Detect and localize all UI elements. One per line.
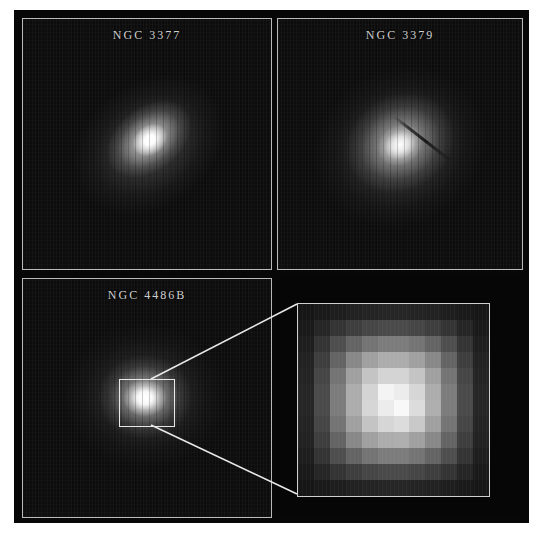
pixel-cell xyxy=(362,368,378,384)
panel-ngc3377: NGC 3377 xyxy=(22,18,272,270)
pixel-cell xyxy=(473,480,489,496)
pixel-cell xyxy=(378,368,394,384)
pixel-cell xyxy=(441,320,457,336)
pixel-cell xyxy=(425,400,441,416)
pixel-cell xyxy=(330,352,346,368)
panel-ngc3379: NGC 3379 xyxy=(277,18,523,270)
pixel-cell xyxy=(330,368,346,384)
pixel-cell xyxy=(457,416,473,432)
pixel-cell xyxy=(378,464,394,480)
pixel-cell xyxy=(330,464,346,480)
pixel-cell xyxy=(441,400,457,416)
pixel-cell xyxy=(409,304,425,320)
pixel-cell xyxy=(394,448,410,464)
pixel-cell xyxy=(346,384,362,400)
pixel-cell xyxy=(394,416,410,432)
pixel-cell xyxy=(378,400,394,416)
pixel-cell xyxy=(330,416,346,432)
pixel-cell xyxy=(394,320,410,336)
pixel-cell xyxy=(378,448,394,464)
pixel-cell xyxy=(298,400,314,416)
pixel-cell xyxy=(409,368,425,384)
pixel-cell xyxy=(441,336,457,352)
pixel-cell xyxy=(314,416,330,432)
pixel-cell xyxy=(394,400,410,416)
pixel-cell xyxy=(378,336,394,352)
pixel-cell xyxy=(441,464,457,480)
pixel-heatmap xyxy=(298,304,489,496)
pixel-cell xyxy=(409,416,425,432)
pixel-cell xyxy=(314,304,330,320)
pixel-cell xyxy=(441,432,457,448)
pixel-cell xyxy=(330,400,346,416)
pixel-cell xyxy=(441,352,457,368)
pixel-cell xyxy=(346,480,362,496)
pixel-cell xyxy=(409,400,425,416)
pixel-cell xyxy=(457,480,473,496)
pixel-cell xyxy=(314,448,330,464)
pixel-cell xyxy=(457,336,473,352)
panel-label-ngc4486b: NGC 4486B xyxy=(23,288,271,303)
pixel-cell xyxy=(378,352,394,368)
pixel-cell xyxy=(394,432,410,448)
pixel-cell xyxy=(362,384,378,400)
pixel-cell xyxy=(457,368,473,384)
pixel-cell xyxy=(314,368,330,384)
pixel-cell xyxy=(346,304,362,320)
pixel-cell xyxy=(378,480,394,496)
pixel-cell xyxy=(425,384,441,400)
pixel-cell xyxy=(457,304,473,320)
pixel-cell xyxy=(441,480,457,496)
pixel-cell xyxy=(425,432,441,448)
pixel-cell xyxy=(473,336,489,352)
panel-inset-magnification xyxy=(297,303,490,497)
pixel-cell xyxy=(394,368,410,384)
pixel-cell xyxy=(441,416,457,432)
pixel-cell xyxy=(473,320,489,336)
pixel-cell xyxy=(425,448,441,464)
pixel-cell xyxy=(362,352,378,368)
pixel-cell xyxy=(298,480,314,496)
pixel-cell xyxy=(409,352,425,368)
pixel-cell xyxy=(457,448,473,464)
panel-label-ngc3377: NGC 3377 xyxy=(23,28,271,43)
pixel-cell xyxy=(346,400,362,416)
pixel-cell xyxy=(409,480,425,496)
pixel-cell xyxy=(330,432,346,448)
pixel-cell xyxy=(346,432,362,448)
panel-label-ngc3379: NGC 3379 xyxy=(278,28,522,43)
pixel-cell xyxy=(473,352,489,368)
pixel-cell xyxy=(425,336,441,352)
pixel-cell xyxy=(409,464,425,480)
pixel-cell xyxy=(425,416,441,432)
sky-background xyxy=(23,19,271,269)
pixel-cell xyxy=(362,320,378,336)
pixel-cell xyxy=(378,304,394,320)
pixel-cell xyxy=(346,320,362,336)
pixel-cell xyxy=(457,464,473,480)
pixel-cell xyxy=(409,384,425,400)
pixel-cell xyxy=(378,384,394,400)
pixel-cell xyxy=(441,304,457,320)
pixel-cell xyxy=(394,336,410,352)
pixel-cell xyxy=(409,336,425,352)
pixel-cell xyxy=(362,448,378,464)
pixel-cell xyxy=(362,464,378,480)
pixel-cell xyxy=(457,320,473,336)
pixel-cell xyxy=(346,448,362,464)
pixel-cell xyxy=(457,400,473,416)
pixel-cell xyxy=(473,384,489,400)
pixel-cell xyxy=(473,416,489,432)
pixel-cell xyxy=(346,368,362,384)
callout-box xyxy=(119,379,175,427)
pixel-cell xyxy=(394,384,410,400)
pixel-cell xyxy=(362,432,378,448)
pixel-cell xyxy=(473,432,489,448)
pixel-cell xyxy=(298,320,314,336)
pixel-cell xyxy=(473,304,489,320)
pixel-cell xyxy=(409,320,425,336)
pixel-cell xyxy=(394,464,410,480)
pixel-cell xyxy=(314,320,330,336)
pixel-cell xyxy=(409,448,425,464)
pixel-cell xyxy=(425,304,441,320)
